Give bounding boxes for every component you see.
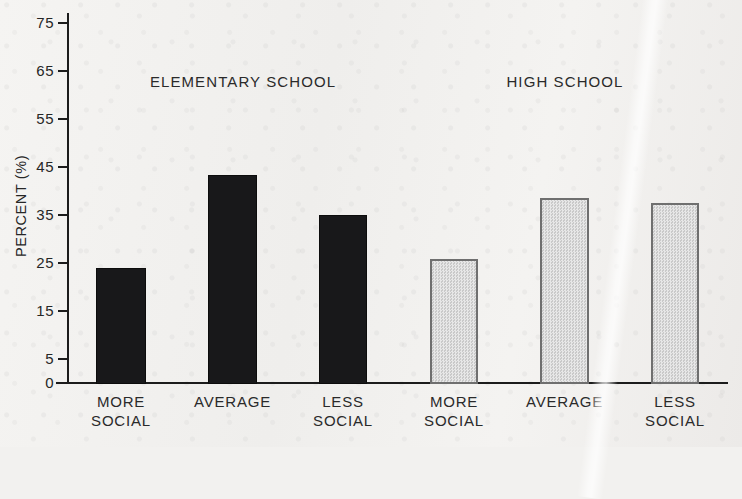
x-category-label-1: MORESOCIAL <box>91 392 151 430</box>
x-category-label-line1: MORE <box>430 393 478 410</box>
bar-6 <box>651 203 699 384</box>
x-category-label-line2: SOCIAL <box>313 411 373 430</box>
x-category-label-line1: LESS <box>322 393 364 410</box>
bar-1 <box>96 268 146 384</box>
x-category-label-line2: SOCIAL <box>645 411 705 430</box>
x-category-label-line2: SOCIAL <box>91 411 151 430</box>
bar-5 <box>540 198 589 384</box>
x-category-label-line2: SOCIAL <box>424 411 484 430</box>
x-category-label-line1: AVERAGE <box>526 393 603 410</box>
x-category-label-2: AVERAGE <box>194 392 271 411</box>
x-category-label-4: MORESOCIAL <box>424 392 484 430</box>
group-label-1: ELEMENTARY SCHOOL <box>150 73 336 90</box>
x-category-label-line1: AVERAGE <box>194 393 271 410</box>
x-category-label-line1: LESS <box>654 393 696 410</box>
x-category-label-6: LESSSOCIAL <box>645 392 705 430</box>
group-label-2: HIGH SCHOOL <box>506 73 623 90</box>
x-category-label-3: LESSSOCIAL <box>313 392 373 430</box>
x-category-label-5: AVERAGE <box>526 392 603 411</box>
bar-2 <box>208 175 257 384</box>
x-category-label-line1: MORE <box>97 393 145 410</box>
bar-4 <box>430 259 478 384</box>
bar-3 <box>319 215 367 384</box>
